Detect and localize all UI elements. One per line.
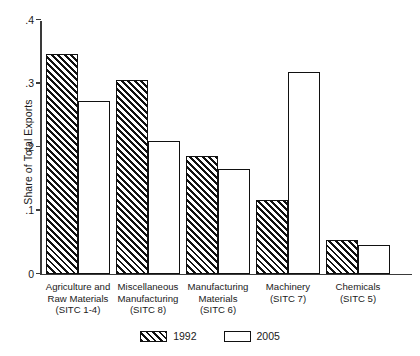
bar-1992-group-4 [256, 200, 288, 273]
x-axis-line [40, 274, 412, 276]
bar-2005-group-3 [218, 169, 250, 274]
bar-2005-group-2 [148, 141, 180, 273]
category-label-line: Chemicals [298, 281, 418, 293]
bar-2005-group-4 [288, 72, 320, 274]
bar-chart: Share of Total Exports 0.1.2.3.4 Agricul… [0, 0, 420, 356]
y-tick-label: 0 [28, 268, 34, 279]
category-label-line: (SITC 5) [298, 293, 418, 305]
y-tick-mark [36, 19, 41, 21]
y-tick-mark [36, 82, 41, 84]
legend-swatch-2005 [224, 331, 251, 342]
bar-1992-group-2 [116, 80, 148, 274]
bar-1992-group-1 [46, 54, 78, 273]
legend-label-2005: 2005 [257, 330, 280, 342]
y-tick-label: .2 [25, 141, 34, 152]
bar-2005-group-1 [78, 101, 110, 274]
bar-1992-group-5 [326, 240, 358, 273]
y-tick-mark [36, 273, 41, 275]
plot-area: 0.1.2.3.4 [40, 21, 412, 275]
bar-1992-group-3 [186, 156, 218, 273]
legend-label-1992: 1992 [173, 330, 196, 342]
legend-item-2005: 2005 [224, 330, 280, 342]
legend-swatch-1992 [140, 331, 167, 342]
legend-item-1992: 1992 [140, 330, 196, 342]
chart-legend: 19922005 [0, 330, 420, 342]
y-tick-mark [36, 209, 41, 211]
bar-2005-group-5 [358, 245, 390, 274]
category-label-5: Chemicals(SITC 5) [298, 281, 418, 304]
y-tick-mark [36, 146, 41, 148]
y-tick-label: .4 [25, 14, 34, 25]
y-axis-line [40, 21, 42, 275]
y-tick-label: .3 [25, 78, 34, 89]
y-tick-label: .1 [25, 205, 34, 216]
category-label-line: (SITC 6) [158, 304, 278, 316]
